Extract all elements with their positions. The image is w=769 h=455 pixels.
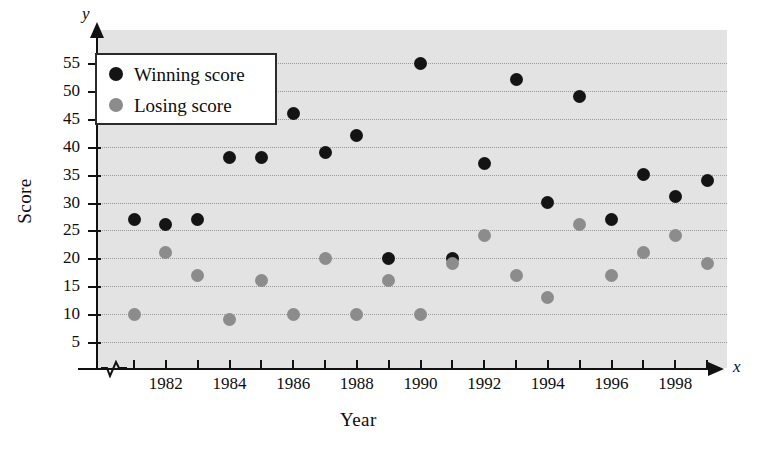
data-point [669, 190, 682, 203]
data-point [128, 213, 141, 226]
x-tick-label-1992: 1992 [454, 375, 514, 392]
data-point [287, 308, 300, 321]
x-tick-label-1998: 1998 [645, 375, 705, 392]
y-tick-label-25: 25 [44, 221, 80, 238]
data-point [414, 308, 427, 321]
data-point [510, 73, 523, 86]
y-tick-40 [88, 147, 101, 149]
legend-item-winning-score: Winning score [109, 59, 245, 89]
y-tick-label-10: 10 [44, 305, 80, 322]
x-tick-label-1990: 1990 [391, 375, 451, 392]
data-point [701, 257, 714, 270]
y-tick-label-35: 35 [44, 166, 80, 183]
y-tick-label-50: 50 [44, 82, 80, 99]
x-tick-label-1996: 1996 [582, 375, 642, 392]
data-point [478, 157, 491, 170]
gridline-35 [98, 175, 727, 176]
data-point [191, 269, 204, 282]
data-point [319, 252, 332, 265]
legend-label-winning: Winning score [134, 65, 245, 84]
data-point [350, 308, 363, 321]
data-point [319, 146, 332, 159]
y-tick-label-20: 20 [44, 249, 80, 266]
gridline-40 [98, 147, 727, 148]
y-axis-title: Score [14, 161, 36, 241]
x-axis-variable-label: x [733, 357, 741, 377]
legend-box: Winning score Losing score [95, 53, 277, 125]
x-tick-label-1988: 1988 [327, 375, 387, 392]
data-point [414, 57, 427, 70]
x-tick-label-1984: 1984 [200, 375, 260, 392]
data-point [510, 269, 523, 282]
scatter-plot-figure: 510152025303540455055 198219841986198819… [0, 0, 769, 455]
data-point [191, 213, 204, 226]
y-tick-25 [88, 230, 101, 232]
x-tick-label-1994: 1994 [518, 375, 578, 392]
y-tick-35 [88, 175, 101, 177]
legend-item-losing-score: Losing score [109, 90, 232, 120]
x-tick-label-1982: 1982 [136, 375, 196, 392]
y-axis-arrow [90, 22, 104, 38]
data-point [255, 274, 268, 287]
gridline-10 [98, 314, 727, 315]
data-point [637, 246, 650, 259]
y-tick-label-30: 30 [44, 194, 80, 211]
y-tick-label-45: 45 [44, 110, 80, 127]
y-tick-30 [88, 203, 101, 205]
data-point [382, 252, 395, 265]
gridline-20 [98, 258, 727, 259]
legend-label-losing: Losing score [134, 96, 232, 115]
gridline-30 [98, 203, 727, 204]
legend-marker-losing-icon [109, 98, 123, 112]
y-tick-label-55: 55 [44, 54, 80, 71]
axis-break-symbol [101, 360, 127, 378]
y-axis-variable-label: y [82, 4, 90, 24]
y-tick-20 [88, 258, 101, 260]
data-point [701, 174, 714, 187]
y-tick-label-40: 40 [44, 138, 80, 155]
data-point [287, 107, 300, 120]
gridline-15 [98, 286, 727, 287]
y-tick-10 [88, 314, 101, 316]
data-point [128, 308, 141, 321]
data-point [637, 168, 650, 181]
legend-marker-winning-icon [109, 67, 123, 81]
x-tick-label-1986: 1986 [263, 375, 323, 392]
x-axis-arrow [708, 362, 724, 376]
y-tick-5 [88, 342, 101, 344]
y-tick-label-5: 5 [44, 333, 80, 350]
gridline-25 [98, 230, 727, 231]
y-tick-15 [88, 286, 101, 288]
y-tick-label-15: 15 [44, 277, 80, 294]
gridline-5 [98, 342, 727, 343]
data-point [605, 269, 618, 282]
x-axis-title: Year [340, 409, 377, 431]
x-axis-line [78, 368, 711, 370]
data-point [605, 213, 618, 226]
